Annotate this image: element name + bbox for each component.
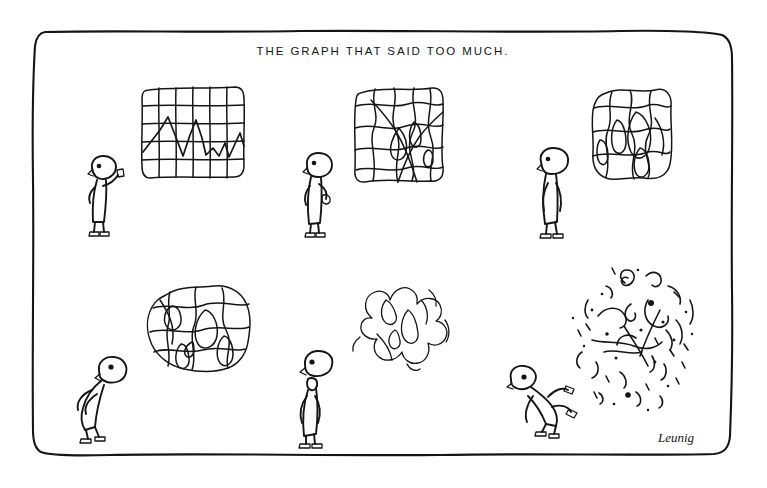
cartoon-canvas: THE GRAPH THAT SAID TOO MUCH. (0, 0, 767, 488)
cartoon-title: THE GRAPH THAT SAID TOO MUCH. (257, 45, 510, 57)
cartoon-artwork: THE GRAPH THAT SAID TOO MUCH. (0, 0, 767, 488)
artist-signature: Leunig (657, 430, 695, 445)
page-background (0, 0, 767, 488)
